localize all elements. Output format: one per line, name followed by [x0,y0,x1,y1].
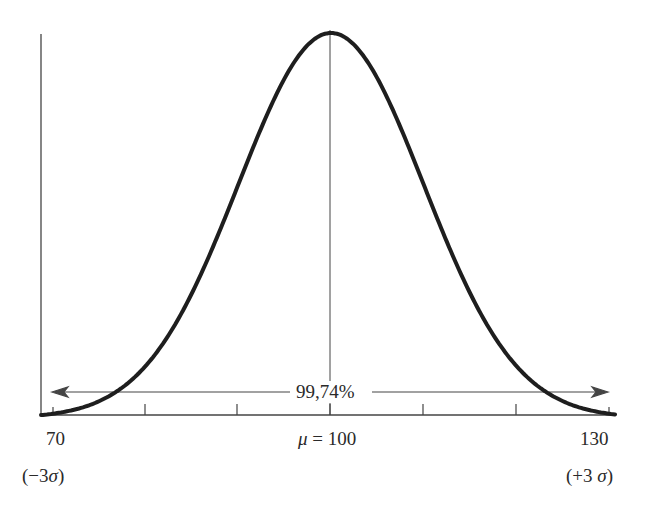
mean-value: = 100 [308,428,357,449]
sigma-label-plus3: (+3 σ) [566,465,613,487]
mu-symbol: μ [298,428,308,449]
x-label-130: 130 [580,428,609,450]
x-label-70: 70 [46,428,65,450]
x-label-mean: μ = 100 [298,428,356,450]
sigma-label-minus3: (−3σ) [22,465,64,487]
x-axis-ticks [53,404,609,415]
bell-curve [41,33,615,415]
percentage-label: 99,74% [292,381,359,403]
